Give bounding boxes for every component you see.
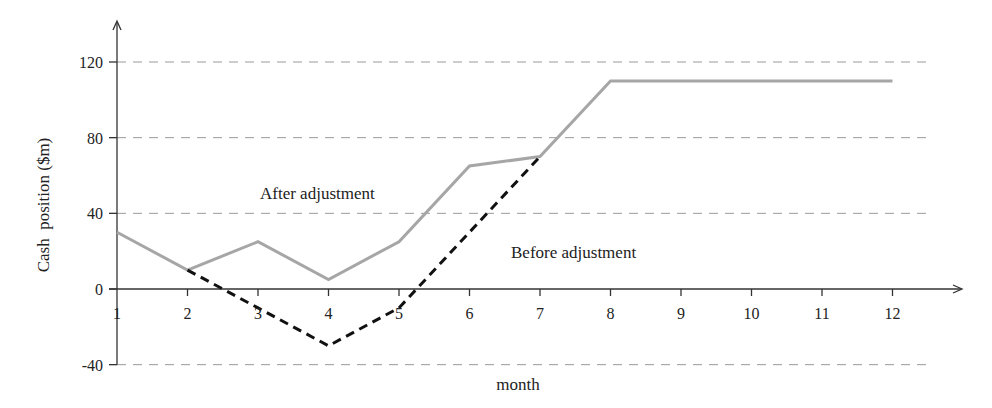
x-axis-title: month — [496, 375, 540, 394]
y-tick-label: -40 — [82, 357, 103, 374]
x-tick-label: 9 — [677, 305, 685, 322]
annotation-before-adjustment: Before adjustment — [511, 243, 636, 262]
y-tick-label: 0 — [95, 281, 103, 298]
x-tick-label: 1 — [113, 305, 121, 322]
x-tick-label: 11 — [814, 305, 829, 322]
y-tick-label: 120 — [79, 54, 103, 71]
x-tick-label: 10 — [744, 305, 760, 322]
cash-position-chart: -4004080120123456789101112 After adjustm… — [0, 0, 992, 408]
x-tick-label: 3 — [254, 305, 262, 322]
chart-canvas: -4004080120123456789101112 After adjustm… — [0, 0, 992, 408]
gridlines — [117, 62, 926, 365]
x-tick-label: 6 — [466, 305, 474, 322]
y-tick-label: 40 — [87, 205, 103, 222]
x-tick-label: 2 — [184, 305, 192, 322]
x-tick-label: 12 — [885, 305, 901, 322]
x-tick-label: 4 — [325, 305, 333, 322]
annotation-after-adjustment: After adjustment — [260, 184, 375, 203]
x-tick-label: 7 — [536, 305, 544, 322]
y-tick-label: 80 — [87, 130, 103, 147]
y-axis-title: Cash position ($m) — [34, 138, 53, 273]
x-tick-label: 8 — [607, 305, 615, 322]
series-after-adjustment — [117, 81, 893, 280]
x-tick-label: 5 — [395, 305, 403, 322]
